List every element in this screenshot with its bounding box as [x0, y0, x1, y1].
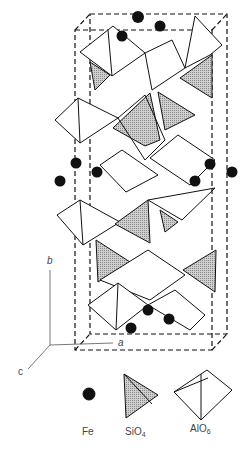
axis-label-b: b [47, 255, 53, 266]
sio-subscript: 4 [142, 431, 146, 438]
legend-label-fe: Fe [82, 426, 94, 437]
alo-subscript: 6 [207, 428, 211, 435]
legend-label-sio4: SiO4 [125, 426, 146, 437]
fe-text: Fe [82, 426, 94, 437]
axes [28, 270, 113, 369]
fe-legend-icon [83, 388, 95, 400]
legend-shapes [83, 370, 232, 420]
alo6-legend-icon [174, 370, 232, 420]
axis-label-a: a [118, 337, 124, 348]
axis-label-c: c [18, 366, 23, 377]
polyhedra [55, 16, 222, 330]
legend-label-alo6: AlO6 [190, 423, 211, 434]
sio4-legend-icon [124, 374, 158, 418]
alo-text: AlO [190, 423, 207, 434]
crystal-structure-diagram [0, 0, 248, 453]
sio-text: SiO [125, 426, 142, 437]
